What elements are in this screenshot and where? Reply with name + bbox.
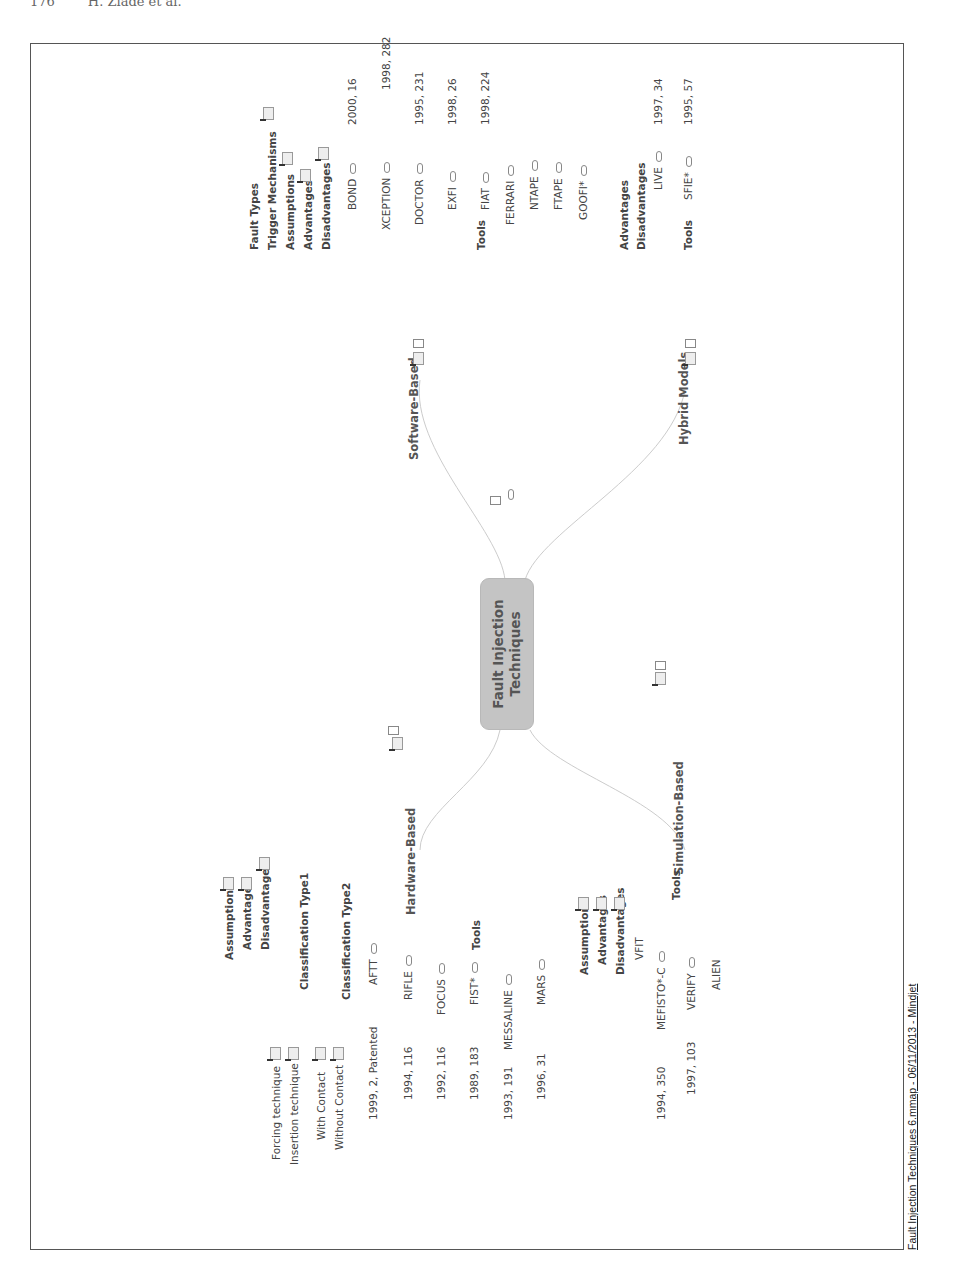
hy-tool[interactable]: LIVE [652, 151, 665, 190]
sim-tool[interactable]: ALIEN [710, 959, 723, 990]
note-icon [490, 496, 501, 505]
hw-tool-ref: 1993, 191 [502, 1067, 515, 1120]
hy-tools-label: Tools [682, 220, 695, 250]
center-node[interactable]: Fault Injection Techniques [480, 578, 534, 730]
hy-tool-ref: 1995, 57 [682, 78, 695, 125]
sim-tools-label: Tools [670, 870, 683, 900]
hw-classification-2[interactable]: Classification Type2 [340, 883, 353, 1000]
hw-tool[interactable]: FIST* [468, 962, 481, 1005]
hw-tool-ref: 1994, 116 [402, 1047, 415, 1100]
sw-tool-ref: 1998, 26 [446, 78, 459, 125]
note-icon [596, 897, 607, 910]
branch-simulation-based[interactable]: Simulation-Based [673, 761, 686, 875]
sw-tool-ref: 2000, 16 [346, 78, 359, 125]
attachment-icon [508, 489, 514, 500]
hy-tool[interactable]: SFIE* [682, 156, 695, 200]
mindmap-canvas: Fault Injection Techniques Software-Base… [30, 43, 904, 1250]
sw-tool-ref: 1998, 282 [380, 37, 393, 90]
branch-software-based[interactable]: Software-Based [408, 357, 421, 460]
doc-icon [413, 339, 424, 348]
connector-lines [30, 43, 904, 1250]
sw-tool-ref: 1995, 231 [413, 72, 426, 125]
doc-icon [388, 726, 399, 735]
note-icon [270, 1047, 281, 1060]
note-icon [333, 1047, 344, 1060]
hw-classification-1[interactable]: Classification Type1 [298, 873, 311, 990]
note-icon [241, 877, 252, 890]
sw-tool[interactable]: FTAPE [552, 162, 565, 210]
sw-tool[interactable]: GOOFI* [577, 165, 590, 220]
note-icon [315, 1047, 326, 1060]
hy-item[interactable]: Advantages [618, 180, 631, 250]
doc-icon [655, 661, 666, 670]
hw-tool[interactable]: FOCUS [435, 963, 448, 1015]
hw-item[interactable]: Assumptions [223, 884, 236, 960]
page-header: 176 H. Ziade et al. [30, 0, 182, 9]
center-line-2: Techniques [507, 599, 524, 708]
sim-tool[interactable]: VFIT [633, 937, 646, 960]
sw-tools-label: Tools [475, 220, 488, 250]
hw-tools-label: Tools [470, 920, 483, 950]
center-line-1: Fault Injection [490, 599, 507, 708]
hw-item[interactable]: Disadvantages [259, 862, 272, 950]
note-icon [392, 737, 403, 750]
note-icon [263, 107, 274, 120]
sw-tool-ref: 1998, 224 [479, 72, 492, 125]
hw-tool-ref: 1999, 2, Patented [367, 1026, 380, 1120]
hw-class1-child[interactable]: Forcing technique [270, 1066, 283, 1160]
sw-tool[interactable]: EXFI [446, 171, 459, 210]
sw-tool[interactable]: BOND [346, 163, 359, 210]
hw-tool-ref: 1992, 116 [435, 1047, 448, 1100]
note-icon [259, 857, 270, 870]
note-icon [655, 672, 666, 685]
sim-tool[interactable]: MEFISTO*-C [655, 951, 668, 1030]
hw-tool-ref: 1996, 31 [535, 1053, 548, 1100]
note-icon [300, 169, 311, 182]
note-icon [413, 352, 424, 365]
sw-item[interactable]: Disadvantages [320, 162, 333, 250]
note-icon [282, 152, 293, 165]
note-icon [685, 352, 696, 365]
sim-tool[interactable]: VERIFY [685, 957, 698, 1010]
note-icon [288, 1047, 299, 1060]
sw-tool[interactable]: NTAPE [528, 160, 541, 210]
hw-tool-ref: 1989, 183 [468, 1047, 481, 1100]
map-footer: Fault Injection Techniques 6.mmap - 06/1… [906, 984, 918, 1250]
sim-tool-ref: 1997, 103 [685, 1042, 698, 1095]
hw-tool[interactable]: MESSALINE [502, 974, 515, 1050]
sw-item[interactable]: Advantages [302, 180, 315, 250]
sw-item[interactable]: Trigger Mechanisms [266, 131, 279, 250]
hy-tool-ref: 1997, 34 [652, 78, 665, 125]
hw-tool[interactable]: MARS [535, 959, 548, 1005]
sw-tool[interactable]: FERRARI [504, 165, 517, 225]
note-icon [318, 147, 329, 160]
hw-class2-child[interactable]: Without Contact [333, 1065, 346, 1150]
sw-tool[interactable]: XCEPTION [380, 162, 393, 230]
sw-item[interactable]: Fault Types [248, 183, 261, 250]
note-icon [614, 897, 625, 910]
note-icon [578, 897, 589, 910]
sim-tool-ref: 1994, 350 [655, 1067, 668, 1120]
hw-tool[interactable]: RIFLE [402, 955, 415, 1000]
hw-tool[interactable]: AFTT [367, 943, 380, 985]
hw-class2-child[interactable]: With Contact [315, 1072, 328, 1140]
sw-tool[interactable]: FIAT [479, 172, 492, 210]
doc-icon [685, 339, 696, 348]
hy-item[interactable]: Disadvantages [635, 162, 648, 250]
hw-class1-child[interactable]: Insertion technique [288, 1063, 301, 1165]
branch-hardware-based[interactable]: Hardware-Based [405, 808, 418, 915]
sw-item[interactable]: Assumptions [284, 174, 297, 250]
sw-tool[interactable]: DOCTOR [413, 163, 426, 225]
note-icon [223, 877, 234, 890]
